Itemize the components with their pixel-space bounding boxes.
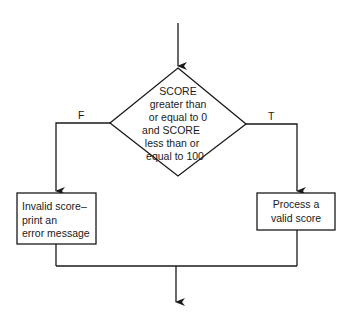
true-branch-label: T: [268, 110, 274, 123]
false-branch-label: F: [78, 109, 84, 122]
false-branch-connector: [56, 123, 110, 191]
decision-line: less than or: [116, 137, 228, 150]
false-process-text: Invalid score– print an error message: [22, 200, 96, 241]
process-line: valid score: [257, 212, 335, 226]
process-line: error message: [22, 227, 96, 241]
decision-line: or equal to 0: [128, 111, 228, 124]
process-line: Process a: [257, 198, 335, 212]
true-branch-connector: [246, 124, 297, 191]
decision-condition-text: SCORE greater than or equal to 0 and SCO…: [128, 85, 228, 163]
decision-line: greater than: [128, 98, 228, 111]
decision-line: SCORE: [128, 85, 228, 98]
true-process-text: Process a valid score: [257, 198, 335, 225]
decision-line: and SCORE: [114, 124, 228, 137]
process-line: print an: [22, 214, 96, 228]
process-line: Invalid score–: [22, 200, 96, 214]
decision-line: equal to 100: [122, 150, 228, 163]
